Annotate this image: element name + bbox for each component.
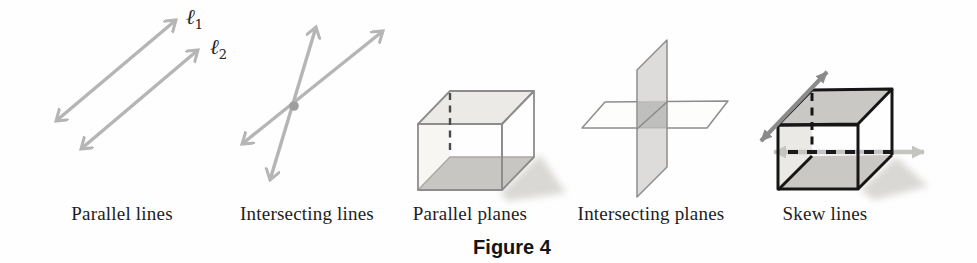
l2-symbol: ℓ xyxy=(210,35,219,59)
intersecting-planes-diagram xyxy=(582,40,728,197)
intersecting-lines-diagram xyxy=(242,27,383,180)
figure-caption: Figure 4 xyxy=(473,236,551,259)
caption-parallel-lines: Parallel lines xyxy=(71,203,172,225)
geometry-figure: ℓ1 ℓ2 Parallel lines Intersecting lines … xyxy=(0,0,977,263)
caption-parallel-planes: Parallel planes xyxy=(413,203,527,225)
l1-subscript: 1 xyxy=(195,17,203,32)
caption-intersecting-planes: Intersecting planes xyxy=(578,203,725,225)
caption-intersecting-lines: Intersecting lines xyxy=(240,203,374,225)
caption-skew-lines: Skew lines xyxy=(783,203,868,225)
l2-subscript: 2 xyxy=(219,47,227,62)
parallel-line-1 xyxy=(56,20,176,121)
skew-lines-diagram xyxy=(761,72,928,200)
parallel-planes-diagram xyxy=(418,91,566,201)
parallel-lines-diagram xyxy=(56,20,198,149)
line-label-l1: ℓ1 xyxy=(186,5,203,32)
intersecting-line-shallow xyxy=(242,31,383,144)
cube-top-face xyxy=(418,91,534,124)
line-label-l2: ℓ2 xyxy=(210,35,227,62)
intersection-point xyxy=(289,101,299,111)
parallel-line-2 xyxy=(81,50,198,149)
l1-symbol: ℓ xyxy=(186,5,195,29)
